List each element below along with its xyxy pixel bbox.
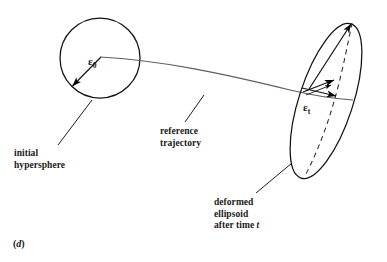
label-deformed-ellipsoid-line2: ellipsoid: [214, 209, 248, 219]
radius-arrow-icon: [73, 57, 102, 86]
epsilon-zero-subscript: 0: [93, 61, 97, 70]
label-deformed-ellipsoid-line3: after time: [214, 220, 257, 230]
deformed-ellipsoid-outline: [275, 16, 376, 187]
epsilon-t-label: εt: [303, 101, 310, 116]
label-deformed-ellipsoid-line1: deformed: [214, 197, 253, 207]
leader-line-reference-trajectory: [185, 95, 204, 122]
leader-line-initial-hypersphere: [58, 100, 92, 145]
label-initial-hypersphere: initial hypersphere: [14, 148, 65, 171]
figure-caption-letter: d: [16, 238, 21, 249]
label-reference-trajectory: reference trajectory: [160, 126, 201, 149]
reference-trajectory-line: [100, 57, 353, 100]
label-deformed-ellipsoid-time-variable: t: [257, 220, 260, 230]
label-deformed-ellipsoid: deformedellipsoidafter time t: [214, 197, 259, 232]
figure-container: ε0 εt initial hypersphere reference traj…: [0, 0, 387, 262]
figure-caption: (d): [13, 238, 25, 249]
epsilon-t-subscript: t: [308, 107, 311, 116]
leader-line-deformed-ellipsoid: [256, 163, 292, 193]
epsilon-zero-label: ε0: [88, 55, 96, 70]
